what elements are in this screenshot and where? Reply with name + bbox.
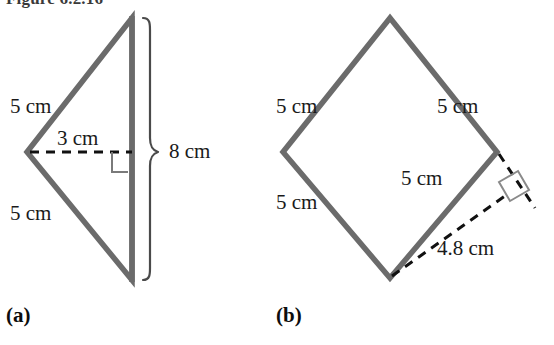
figure-container: Figure 6.2.16 5 cm <box>0 0 554 345</box>
label-a-base-dashed: 3 cm <box>57 128 98 149</box>
label-a-lower-left-side: 5 cm <box>10 203 51 224</box>
label-b-lower-left-side: 5 cm <box>276 192 317 213</box>
figure-b-group <box>283 18 535 278</box>
label-b-upper-right-side: 5 cm <box>437 96 478 117</box>
label-b-slant-dashed: 4.8 cm <box>437 238 494 259</box>
label-a-upper-left-side: 5 cm <box>10 96 51 117</box>
height-brace-a <box>143 18 158 280</box>
right-angle-marker-a <box>112 152 128 172</box>
dashed-side-extension-b <box>499 154 535 208</box>
label-b-lower-right-side: 5 cm <box>401 168 442 189</box>
geometry-figure-svg <box>0 0 554 345</box>
panel-label-b: (b) <box>276 305 302 326</box>
label-a-brace-height: 8 cm <box>169 141 210 162</box>
panel-label-a: (a) <box>6 305 31 326</box>
label-b-upper-left-side: 5 cm <box>276 96 317 117</box>
